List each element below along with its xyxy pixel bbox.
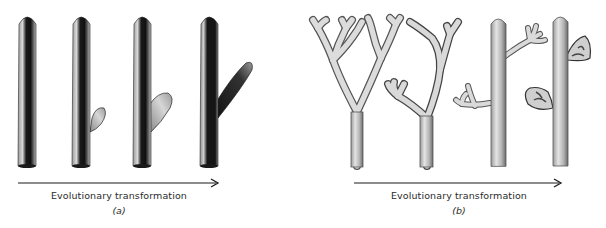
stage-a2-stem [72,17,105,168]
stage-b2-branching [388,22,458,167]
caption-a: Evolutionary transformation [51,190,187,201]
arrow-b [354,179,561,187]
stage-b1-branching [313,18,400,167]
panel-b: Evolutionary transformation (b) [300,0,606,228]
stage-a4-stem [200,17,252,168]
arrow-a [18,179,218,187]
caption-b: Evolutionary transformation [391,190,527,201]
stage-a3-stem [133,17,172,168]
panel-a: Evolutionary transformation (a) [0,0,300,228]
panel-label-a: (a) [112,205,125,216]
stage-a1-stem [18,17,36,168]
panel-label-b: (b) [452,205,465,216]
